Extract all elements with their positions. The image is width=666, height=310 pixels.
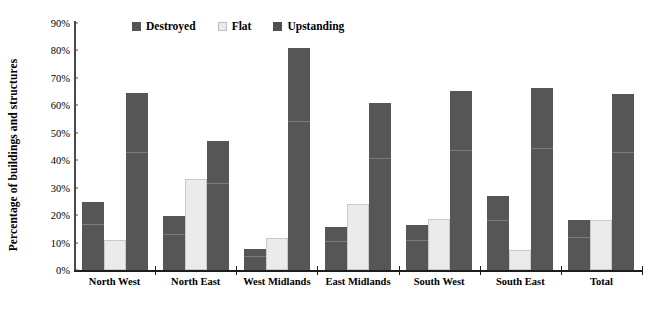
bar-destroyed[interactable]	[325, 227, 347, 270]
x-axis-category-label: North East	[155, 276, 236, 298]
y-axis-tick-mark	[74, 132, 78, 133]
y-axis-tick-label: 40%	[51, 155, 70, 166]
x-axis-separator-tick	[561, 266, 562, 275]
bar-group	[236, 23, 317, 270]
bar-group	[155, 23, 236, 270]
y-axis-tick-mark	[74, 160, 78, 161]
bar-upstanding[interactable]	[288, 48, 310, 270]
x-axis-line	[74, 270, 642, 272]
x-axis-separator-tick	[155, 266, 156, 275]
y-axis-tick-mark	[74, 105, 78, 106]
bar-destroyed[interactable]	[487, 196, 509, 270]
y-axis-tick-label: 30%	[51, 182, 70, 193]
x-axis-category-label: North West	[74, 276, 155, 298]
y-axis-tick-label: 70%	[51, 72, 70, 83]
bar-group	[561, 23, 642, 270]
x-axis-category-label: South East	[480, 276, 561, 298]
bar-destroyed[interactable]	[82, 202, 104, 270]
bar-group	[399, 23, 480, 270]
bar-destroyed[interactable]	[244, 249, 266, 270]
bar-group	[317, 23, 398, 270]
x-axis-category-label: East Midlands	[317, 276, 398, 298]
bar-upstanding[interactable]	[207, 141, 229, 270]
y-axis-tick-mark	[74, 187, 78, 188]
x-axis-category-label: Total	[561, 276, 642, 298]
x-axis-labels: North WestNorth EastWest MidlandsEast Mi…	[74, 276, 642, 298]
y-axis-tick-labels: 90%80%70%60%50%40%30%20%10%0%	[34, 0, 70, 310]
bar-flat[interactable]	[347, 204, 369, 270]
bar-destroyed[interactable]	[406, 225, 428, 270]
bar-flat[interactable]	[185, 179, 207, 270]
bar-groups	[74, 23, 642, 270]
y-axis-tick-mark	[74, 50, 78, 51]
bar-group	[480, 23, 561, 270]
x-axis-category-label: South West	[399, 276, 480, 298]
y-axis-tick-label: 20%	[51, 210, 70, 221]
y-axis-tick-label: 0%	[56, 265, 70, 276]
bar-flat[interactable]	[428, 219, 450, 270]
bar-chart: Percentage of buildings and structures 9…	[0, 0, 666, 310]
bar-destroyed[interactable]	[163, 216, 185, 270]
bar-upstanding[interactable]	[450, 91, 472, 270]
bar-flat[interactable]	[104, 240, 126, 270]
y-axis-tick-mark	[74, 215, 78, 216]
y-axis-tick-label: 90%	[51, 18, 70, 29]
y-axis-tick-label: 60%	[51, 100, 70, 111]
bar-group	[74, 23, 155, 270]
x-axis-separator-tick	[399, 266, 400, 275]
y-axis-tick-mark	[74, 77, 78, 78]
x-axis-category-label: West Midlands	[236, 276, 317, 298]
y-axis-tick-label: 80%	[51, 45, 70, 56]
x-axis-separator-tick	[317, 266, 318, 275]
x-axis-separator-tick	[236, 266, 237, 275]
y-axis-tick-mark	[74, 242, 78, 243]
bar-upstanding[interactable]	[612, 94, 634, 270]
bar-flat[interactable]	[266, 238, 288, 270]
bar-destroyed[interactable]	[568, 220, 590, 270]
bar-flat[interactable]	[590, 220, 612, 270]
bar-upstanding[interactable]	[531, 88, 553, 270]
x-axis-separator-tick	[480, 266, 481, 275]
y-axis-tick-label: 10%	[51, 237, 70, 248]
bar-flat[interactable]	[509, 250, 531, 270]
bar-upstanding[interactable]	[126, 93, 148, 270]
bar-upstanding[interactable]	[369, 103, 391, 270]
y-axis-title: Percentage of buildings and structures	[0, 0, 26, 310]
y-axis-tick-mark	[74, 23, 78, 24]
y-axis-tick-mark	[74, 270, 78, 271]
y-axis-tick-label: 50%	[51, 127, 70, 138]
x-axis-end-tick	[642, 266, 643, 275]
